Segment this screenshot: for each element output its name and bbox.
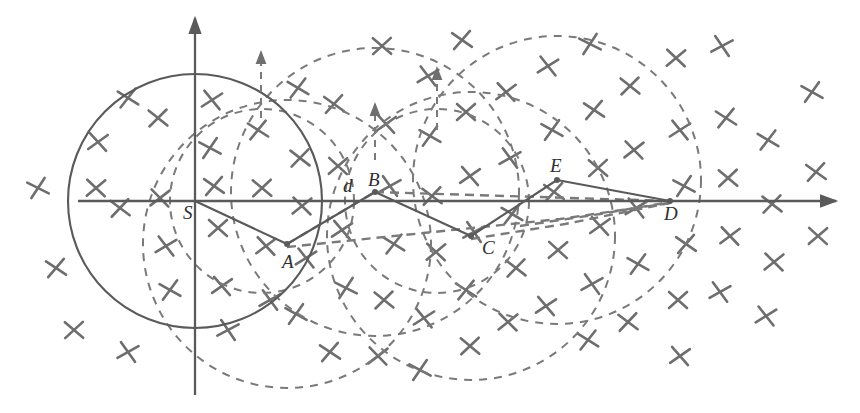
label-A: A [280, 251, 294, 272]
vertex-E [554, 177, 560, 183]
cross-mark [418, 66, 439, 85]
cross-mark [720, 227, 739, 245]
cross-mark [624, 141, 643, 158]
vertex-A [284, 241, 290, 247]
cross-mark [335, 278, 357, 298]
cross-mark [673, 176, 694, 196]
cross-mark [65, 322, 83, 338]
cross-mark [618, 313, 637, 331]
cross-mark [669, 292, 687, 308]
cross-mark [427, 244, 446, 261]
cross-mark [549, 242, 567, 258]
diagram-svg: SABCEDd [0, 0, 860, 413]
cross-mark [506, 259, 525, 276]
cross-mark [248, 121, 268, 140]
cross-mark [329, 158, 347, 174]
cross-mark [806, 163, 826, 181]
cross-mark [256, 237, 275, 255]
label-distance-d: d [343, 175, 353, 196]
cross-mark [375, 292, 394, 309]
cross-mark [88, 133, 108, 151]
cross-mark [621, 78, 640, 95]
cross-mark [809, 228, 827, 244]
cross-mark [670, 347, 690, 365]
cross-mark [46, 259, 66, 277]
cross-mark [670, 121, 690, 140]
cross-mark [117, 342, 138, 362]
cross-mark [452, 31, 472, 49]
cross-mark [160, 280, 181, 299]
cross-mark [87, 180, 106, 197]
cross-mark [758, 130, 779, 149]
label-D: D [663, 203, 678, 224]
cross-mark [253, 180, 272, 197]
cross-mark [801, 82, 822, 102]
cross-mark [578, 331, 599, 350]
cross-mark [199, 138, 220, 158]
cross-mark [324, 95, 344, 113]
cross-mark [156, 236, 177, 255]
cross-mark [667, 50, 686, 67]
label-E: E [549, 155, 562, 176]
cross-mark [290, 149, 309, 166]
cross-mark [538, 57, 559, 76]
cross-mark [460, 167, 480, 185]
cross-mark [541, 120, 562, 140]
cross-mark [409, 360, 430, 380]
cross-mark [149, 110, 168, 127]
cross-mark [150, 189, 169, 206]
cross-mark [589, 160, 607, 176]
cross-mark [711, 36, 732, 56]
cross-mark [765, 254, 784, 271]
cross-mark [710, 282, 731, 301]
cross-mark [27, 178, 49, 198]
cross-mark [716, 109, 736, 128]
label-C: C [482, 237, 495, 258]
cross-mark [373, 38, 391, 54]
cross-mark [756, 307, 777, 326]
cross-mark [212, 277, 232, 295]
cross-mark [320, 343, 340, 361]
figure-canvas: SABCEDd [0, 0, 860, 413]
cross-mark [209, 220, 227, 236]
vertex-C [468, 233, 474, 239]
cross-mark [590, 217, 610, 235]
cross-mark [579, 34, 601, 54]
label-B: B [368, 169, 380, 190]
cross-mark [581, 274, 602, 294]
label-S: S [183, 202, 193, 223]
cross-mark [204, 177, 224, 195]
cross-mark [461, 338, 480, 355]
cross-mark [202, 91, 222, 110]
cross-mark [584, 101, 604, 119]
cross-mark [628, 254, 649, 273]
cross-mark [288, 78, 309, 97]
cross-mark [762, 195, 781, 212]
cross-mark [719, 170, 738, 187]
solid-route [195, 180, 670, 244]
cross-mark [384, 235, 405, 254]
cross-mark [536, 297, 556, 315]
